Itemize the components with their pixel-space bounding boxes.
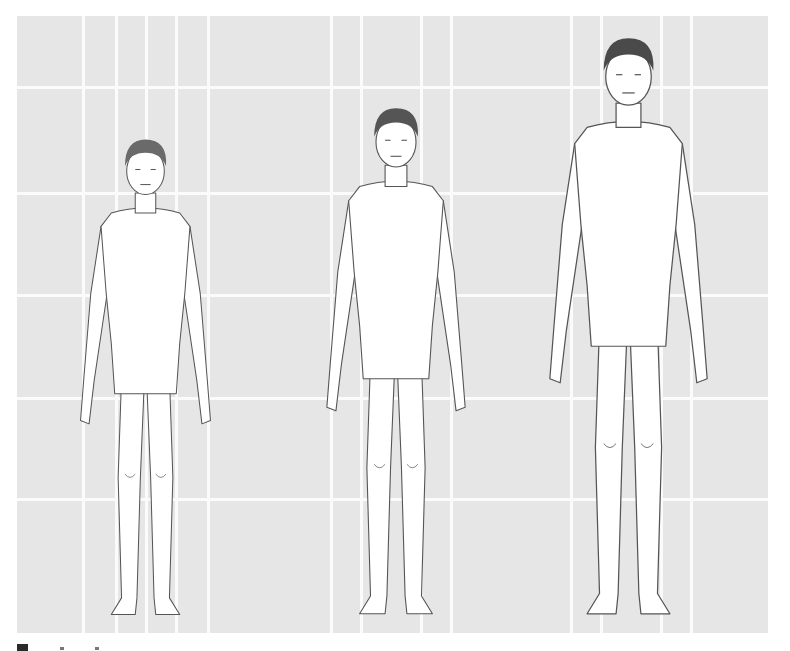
figure-small [60,126,231,628]
truncated-caption [0,640,790,651]
figure-medium [305,94,487,628]
figure-tall [525,22,732,630]
